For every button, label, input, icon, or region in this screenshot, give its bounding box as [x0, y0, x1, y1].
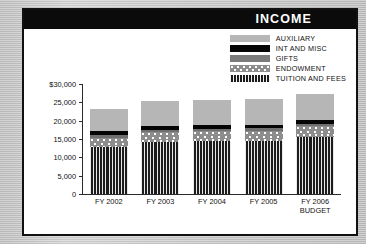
bar-segment-aux	[245, 99, 283, 124]
y-axis-label: $30,000	[49, 80, 76, 89]
x-axis-label-line: BUDGET	[300, 207, 331, 216]
legend-label: TUITION AND FEES	[276, 74, 346, 83]
legend-item-gift: GIFTS	[230, 54, 346, 63]
bar-fy-2006-budget: FY 2006BUDGET	[296, 94, 334, 194]
bar-segment-tuition	[141, 142, 179, 194]
page-background: INCOME AUXILIARYINT AND MISCGIFTSENDOWME…	[0, 0, 366, 244]
bar-segment-aux	[296, 94, 334, 120]
x-axis-label: FY 2003	[146, 198, 174, 207]
bar-fy-2003: FY 2003	[141, 101, 179, 194]
bar-fy-2004: FY 2004	[193, 100, 231, 194]
bar-segment-aux	[141, 101, 179, 126]
x-axis-label: FY 2005	[250, 198, 278, 207]
bar-fy-2005: FY 2005	[245, 99, 283, 194]
y-axis-label: 5,000	[58, 171, 77, 180]
legend-swatch-gift-icon	[230, 55, 270, 62]
x-axis-label: FY 2006BUDGET	[300, 198, 331, 215]
bar-segment-tuition	[193, 141, 231, 194]
y-axis-tick	[79, 102, 83, 103]
y-axis-tick	[79, 176, 83, 177]
legend-label: INT AND MISC	[276, 44, 327, 53]
legend-label: GIFTS	[276, 54, 298, 63]
y-axis-tick	[79, 157, 83, 158]
x-axis-label-line: FY 2002	[95, 198, 123, 207]
x-axis-label: FY 2002	[95, 198, 123, 207]
y-axis-tick	[79, 194, 83, 195]
bar-segment-aux	[90, 109, 128, 132]
page-title: INCOME	[255, 12, 312, 26]
y-axis-label: 25,000	[53, 98, 76, 107]
legend-item-endow: ENDOWMENT	[230, 64, 346, 73]
legend-swatch-int-icon	[230, 45, 270, 52]
chart-legend: AUXILIARYINT AND MISCGIFTSENDOWMENTTUITI…	[230, 34, 346, 83]
header-bar: INCOME	[24, 10, 356, 29]
y-axis-tick	[79, 139, 83, 140]
y-axis-tick	[79, 84, 83, 85]
bar-segment-aux	[193, 100, 231, 125]
y-axis-label: 10,000	[53, 153, 76, 162]
legend-swatch-endow-icon	[230, 65, 270, 72]
y-axis-label: 0	[72, 190, 76, 199]
chart-card: INCOME AUXILIARYINT AND MISCGIFTSENDOWME…	[22, 8, 358, 236]
legend-label: ENDOWMENT	[276, 64, 326, 73]
x-axis-label-line: FY 2003	[146, 198, 174, 207]
bar-group: FY 2002FY 2003FY 2004FY 2005FY 2006BUDGE…	[83, 84, 341, 194]
bar-segment-tuition	[245, 141, 283, 194]
bar-fy-2002: FY 2002	[90, 109, 128, 194]
legend-item-int: INT AND MISC	[230, 44, 346, 53]
legend-swatch-aux-icon	[230, 35, 270, 42]
x-axis-label-line: FY 2005	[250, 198, 278, 207]
y-axis-tick	[79, 121, 83, 122]
x-axis-label-line: FY 2004	[198, 198, 226, 207]
legend-swatch-tuition-icon	[230, 75, 270, 82]
x-axis-label: FY 2004	[198, 198, 226, 207]
bar-segment-endow	[90, 138, 128, 147]
y-axis-label: 20,000	[53, 116, 76, 125]
bar-segment-tuition	[296, 137, 334, 194]
bar-segment-endow	[296, 126, 334, 137]
bar-segment-tuition	[90, 147, 128, 194]
bar-segment-endow	[245, 131, 283, 142]
legend-label: AUXILIARY	[276, 34, 316, 43]
plot-area: FY 2002FY 2003FY 2004FY 2005FY 2006BUDGE…	[82, 84, 341, 195]
legend-item-tuition: TUITION AND FEES	[230, 74, 346, 83]
bar-segment-endow	[141, 132, 179, 142]
bar-segment-endow	[193, 131, 231, 141]
legend-item-aux: AUXILIARY	[230, 34, 346, 43]
y-axis-label: 15,000	[53, 135, 76, 144]
